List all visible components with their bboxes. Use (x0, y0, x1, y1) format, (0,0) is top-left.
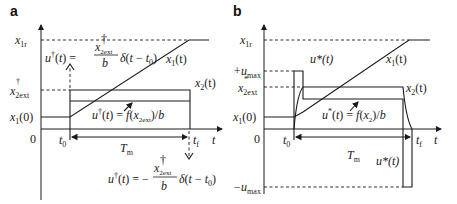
label-zero: 0 (254, 132, 260, 146)
panel-label-b: b (233, 3, 242, 19)
label-tf: tf (193, 133, 199, 149)
label-umax-neg: −umax (233, 180, 261, 196)
label-t0: t0 (59, 133, 66, 149)
svg-text:δ(t − t0): δ(t − t0) (179, 172, 216, 188)
svg-text:b: b (161, 179, 167, 193)
label-t-axis: t (434, 133, 438, 147)
svg-text:†: † (101, 32, 107, 46)
label-t-axis: t (212, 133, 216, 147)
label-zero: 0 (30, 132, 36, 146)
svg-text:u†(t) = −: u†(t) = − (108, 171, 149, 186)
label-x2-curve: x2(t) (405, 81, 427, 97)
tm-label-b: Tm (347, 148, 361, 164)
label-u-top: u*(t) (310, 52, 333, 66)
label-x1-curve: x1(t) (165, 52, 187, 68)
panel-label-a: a (10, 3, 18, 19)
svg-text:b: b (102, 56, 108, 70)
panel-a: a x1r x2ext† x1(0) 0 t0 tf t (9, 3, 222, 200)
impulse-end-formula: u†(t) = − x2ext † b δ(t − t0) (108, 153, 216, 193)
tm-label-a: Tm (120, 141, 134, 157)
label-tf: tf (416, 133, 422, 149)
svg-text:u†(t) = f(x2ext)/b: u†(t) = f(x2ext)/b (92, 107, 164, 124)
label-x1-0: x1(0) (9, 110, 33, 126)
label-u-bottom: u*(t) (376, 154, 399, 168)
svg-text:δ(t − t0): δ(t − t0) (120, 51, 157, 67)
label-x1r: x1r (239, 33, 252, 49)
label-x1-0: x1(0) (232, 110, 256, 126)
svg-text:u†(t) =: u†(t) = (45, 50, 76, 65)
label-x2-curve: x2(t) (194, 76, 216, 92)
control-mid-formula-a: u†(t) = f(x2ext)/b (92, 107, 164, 124)
control-mid-formula-b: u*(t) = f(x2)/b (322, 107, 386, 124)
panel-b: b x1r +umax x2ext* x1(0) −umax 0 t0 tf t (232, 3, 441, 196)
label-t0: t0 (283, 133, 290, 149)
svg-text:†: † (160, 153, 166, 167)
impulse-start-formula: u†(t) = x2ext † b δ(t − t0) (45, 32, 157, 70)
label-x2ext: x2ext† (9, 77, 30, 100)
label-x1-curve: x1(t) (385, 52, 407, 68)
label-x1r: x1r (14, 33, 27, 49)
svg-text:u*(t) = f(x2)/b: u*(t) = f(x2)/b (322, 107, 386, 124)
